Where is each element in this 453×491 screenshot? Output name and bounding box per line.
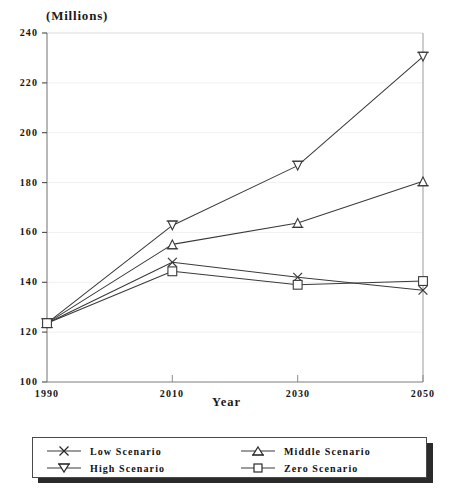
population-projection-chart: (Millions): [0, 0, 453, 491]
up-triangle-marker: [241, 444, 275, 458]
x-axis-title: Year: [0, 395, 453, 410]
legend-label: Zero Scenario: [275, 463, 358, 474]
x-axis-ticks: [172, 375, 423, 382]
legend-entry-zero-scenario[interactable]: Zero Scenario: [241, 460, 358, 476]
plot-area: [0, 0, 453, 400]
legend-box: Low Scenario High Scenario Middle Sc: [32, 437, 427, 478]
legend-entry-middle-scenario[interactable]: Middle Scenario: [241, 443, 371, 459]
y-tick-label-140: 140: [2, 276, 38, 287]
y-tick-label-120: 120: [2, 326, 38, 337]
x-marker: [47, 444, 81, 458]
series-high-scenario: [41, 52, 429, 327]
y-tick-label-220: 220: [2, 77, 38, 88]
legend-label: Low Scenario: [81, 446, 162, 457]
series-middle-scenario: [41, 177, 429, 328]
legend-entry-low-scenario[interactable]: Low Scenario: [47, 443, 162, 459]
y-axis-ticks: [42, 33, 47, 382]
y-tick-label-180: 180: [2, 177, 38, 188]
series-low-scenario: [43, 258, 428, 328]
down-triangle-marker: [47, 461, 81, 475]
y-tick-label-100: 100: [2, 376, 38, 387]
legend-entry-high-scenario[interactable]: High Scenario: [47, 460, 165, 476]
y-tick-label-240: 240: [2, 27, 38, 38]
data-series-layer: [41, 52, 429, 327]
legend-label: Middle Scenario: [275, 446, 371, 457]
y-tick-label-160: 160: [2, 226, 38, 237]
square-marker: [241, 461, 275, 475]
legend-label: High Scenario: [81, 463, 165, 474]
axis-spines: [47, 33, 423, 382]
y-tick-label-200: 200: [2, 127, 38, 138]
